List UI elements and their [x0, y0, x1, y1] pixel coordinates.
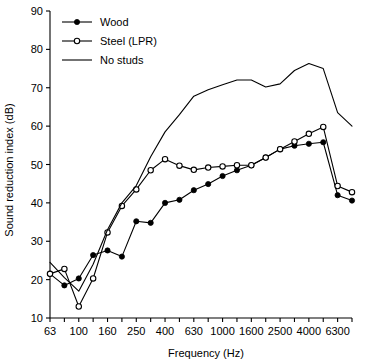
- x-axis-tick-label: 4000: [297, 325, 321, 337]
- data-point: [191, 188, 196, 193]
- data-point: [205, 165, 210, 170]
- legend-label: Steel (LPR): [100, 35, 157, 47]
- data-point: [162, 156, 167, 161]
- y-axis-tick-label: 10: [31, 312, 43, 324]
- legend-marker-filled-circle: [74, 19, 79, 24]
- chart-legend: WoodSteel (LPR)No studs: [62, 16, 157, 66]
- data-point: [148, 168, 153, 173]
- x-axis-tick-label: 100: [70, 325, 88, 337]
- series-line: [50, 142, 352, 285]
- data-point: [263, 155, 268, 160]
- data-series-group: [47, 64, 354, 310]
- x-axis-tick-label: 63: [44, 325, 56, 337]
- legend-item-wood: Wood: [62, 16, 129, 28]
- data-point: [335, 193, 340, 198]
- data-point: [191, 167, 196, 172]
- data-point: [249, 163, 254, 168]
- data-point: [91, 252, 96, 257]
- y-axis-tick-label: 20: [31, 274, 43, 286]
- sound-reduction-index-line-chart: 102030405060708090 631001602504006301000…: [0, 0, 366, 363]
- data-point: [162, 200, 167, 205]
- series-steel-lpr: [47, 124, 354, 309]
- data-point: [62, 266, 67, 271]
- legend-marker-open-circle: [74, 38, 79, 43]
- x-axis-tick-label: 1600: [239, 325, 263, 337]
- data-point: [62, 283, 67, 288]
- data-point: [177, 197, 182, 202]
- data-point: [90, 276, 95, 281]
- y-axis-title: Sound reduction index (dB): [3, 103, 15, 236]
- x-axis-tick-label: 2500: [268, 325, 292, 337]
- y-axis: 102030405060708090: [31, 5, 50, 324]
- x-axis-tick-label: 160: [98, 325, 116, 337]
- data-point: [76, 276, 81, 281]
- legend-label: No studs: [100, 54, 144, 66]
- data-point: [148, 220, 153, 225]
- y-axis-tick-label: 70: [31, 82, 43, 94]
- data-point: [119, 254, 124, 259]
- y-axis-tick-label: 60: [31, 120, 43, 132]
- y-axis-tick-label: 80: [31, 43, 43, 55]
- data-point: [220, 173, 225, 178]
- y-axis-tick-label: 40: [31, 197, 43, 209]
- x-axis-title: Frequency (Hz): [168, 347, 244, 359]
- data-point: [321, 124, 326, 129]
- y-axis-tick-label: 30: [31, 235, 43, 247]
- x-axis-tick-label: 630: [185, 325, 203, 337]
- y-axis-tick-label: 50: [31, 159, 43, 171]
- data-point: [220, 164, 225, 169]
- data-point: [335, 183, 340, 188]
- y-axis-tick-label: 90: [31, 5, 43, 17]
- data-point: [306, 141, 311, 146]
- data-point: [321, 140, 326, 145]
- legend-label: Wood: [100, 16, 129, 28]
- data-point: [105, 248, 110, 253]
- data-point: [277, 146, 282, 151]
- data-point: [349, 198, 354, 203]
- x-axis-tick-label: 1000: [210, 325, 234, 337]
- chart-figure: 102030405060708090 631001602504006301000…: [0, 0, 366, 363]
- data-point: [206, 181, 211, 186]
- data-point: [177, 163, 182, 168]
- data-point: [292, 139, 297, 144]
- data-point: [134, 219, 139, 224]
- x-axis-tick-label: 250: [127, 325, 145, 337]
- data-point: [76, 304, 81, 309]
- x-axis: 6310016025040063010001600250040006300: [44, 318, 352, 337]
- legend-item-steel-lpr: Steel (LPR): [62, 35, 157, 47]
- x-axis-tick-label: 400: [156, 325, 174, 337]
- data-point: [47, 271, 52, 276]
- data-point: [306, 131, 311, 136]
- legend-item-no-studs: No studs: [62, 54, 144, 66]
- data-point: [234, 163, 239, 168]
- series-wood: [47, 140, 354, 288]
- data-point: [349, 189, 354, 194]
- x-axis-tick-label: 6300: [325, 325, 349, 337]
